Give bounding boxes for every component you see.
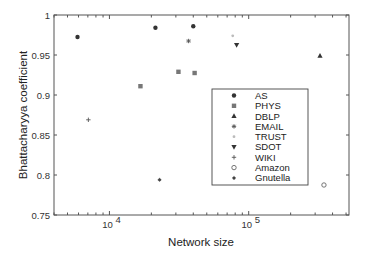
marker-filled-circle-icon [153, 26, 157, 30]
marker-filled-square-icon [176, 70, 180, 74]
marker-filled-square-icon [138, 84, 142, 88]
series-as [75, 24, 195, 39]
y-axis-label: Bhattacharyya coefficient [17, 50, 29, 179]
legend-label: Gnutella [255, 172, 291, 183]
x-tick-exponent: 4 [115, 214, 120, 225]
x-axis-label: Network size [168, 236, 234, 248]
y-tick-label: 0.85 [32, 130, 51, 141]
series-wiki [86, 118, 90, 122]
series-email [186, 39, 190, 43]
scatter-chart: 0.750.80.850.90.951104105 ASPHYSDBLPEMAI… [0, 0, 366, 260]
legend-marker-filled-square-icon [232, 104, 236, 108]
marker-asterisk-icon [186, 39, 190, 43]
series-gnutella [158, 178, 162, 182]
series-amazon [322, 183, 326, 187]
marker-triangle-down-icon [234, 43, 239, 48]
marker-point-icon [231, 34, 234, 37]
y-tick-label: 0.75 [32, 210, 51, 221]
x-tick-label: 10 [241, 219, 252, 230]
legend-marker-asterisk-icon [232, 124, 236, 128]
marker-star-icon [158, 178, 162, 182]
legend-marker-filled-circle-icon [232, 93, 236, 97]
series-dblp [317, 53, 322, 58]
x-tick-label: 10 [102, 219, 113, 230]
marker-filled-circle-icon [75, 35, 79, 39]
marker-triangle-up-icon [317, 53, 322, 58]
series-phys [138, 70, 197, 89]
marker-filled-square-icon [192, 71, 196, 75]
y-tick-label: 0.9 [37, 90, 50, 101]
marker-open-circle-icon [322, 183, 326, 187]
series-sdot [234, 43, 239, 48]
x-tick-exponent: 5 [255, 214, 260, 225]
series-trust [231, 34, 234, 37]
legend-marker-point-icon [233, 135, 236, 138]
y-tick-label: 1 [45, 10, 50, 21]
marker-plus-icon [86, 118, 90, 122]
legend: ASPHYSDBLPEMAILTRUSTSDOTWIKIAmazonGnutel… [212, 89, 308, 185]
y-tick-label: 0.8 [37, 170, 50, 181]
y-tick-label: 0.95 [32, 50, 51, 61]
marker-filled-circle-icon [191, 24, 195, 28]
